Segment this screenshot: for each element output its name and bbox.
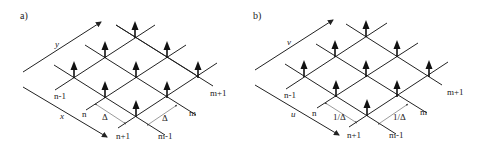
y-axis-label: y	[54, 39, 59, 49]
delta-label-right: Δ	[162, 113, 168, 123]
spin-arrow-icon	[363, 20, 370, 37]
x-axis-label: x	[59, 111, 64, 121]
label-n-minus-1: n-1	[54, 91, 66, 101]
spin-arrow-icon	[71, 61, 78, 78]
lattice-diagram: a) y x	[0, 0, 483, 145]
u-axis-label: u	[291, 109, 296, 119]
label-m-plus-1: m+1	[210, 88, 227, 98]
label-n-plus-1: n+1	[116, 131, 130, 141]
panel-b-label: b)	[253, 10, 261, 22]
label-m: m	[420, 107, 427, 117]
label-m-minus-1: m-1	[389, 130, 404, 140]
label-n: n	[82, 109, 87, 119]
label-n-plus-1: n+1	[347, 130, 361, 140]
inverse-delta-label-right: 1/Δ	[393, 112, 406, 122]
label-n-minus-1: n-1	[284, 90, 296, 100]
panel-b: b) v u 1/Δ 1/Δ n-1	[253, 10, 464, 140]
m-lines	[54, 25, 213, 135]
y-axis-arrow	[23, 22, 101, 72]
panel-a-label: a)	[20, 10, 28, 22]
v-axis-label: v	[287, 37, 291, 47]
label-m-plus-1: m+1	[447, 87, 464, 97]
v-axis-arrow	[255, 20, 333, 70]
panel-a: a) y x	[20, 10, 227, 141]
inverse-delta-label-left: 1/Δ	[333, 112, 346, 122]
label-m-minus-1: m-1	[158, 131, 173, 141]
spin-arrows	[301, 20, 433, 116]
spin-arrow-icon	[426, 60, 433, 77]
delta-label-left: Δ	[102, 112, 108, 122]
label-n: n	[312, 108, 317, 118]
u-axis-arrow	[255, 85, 339, 135]
spin-arrows	[71, 21, 202, 117]
label-m: m	[189, 108, 196, 118]
